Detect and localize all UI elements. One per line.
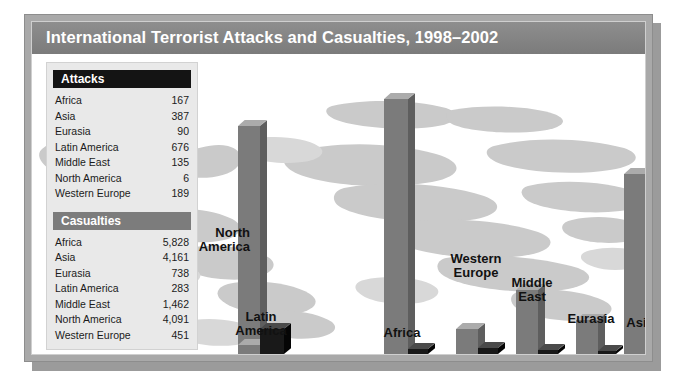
poster-shadow: International Terrorist Attacks and Casu… [24,14,653,362]
row-value: 4,091 [163,312,189,328]
table-row: North America 4,091 [55,312,189,328]
row-value: 4,161 [163,250,189,266]
bar-group-western-europe [456,52,522,354]
attacks-bar-africa[interactable] [408,349,428,354]
row-label: Eurasia [55,266,91,282]
row-label: Western Europe [55,328,131,344]
row-value: 738 [171,266,189,282]
data-tables-panel: Attacks Africa 167 Asia 387 Eurasia 90 [46,62,198,350]
row-label: Eurasia [55,124,91,140]
table-row: North America 6 [55,171,189,187]
table-row: Asia 4,161 [55,250,189,266]
casualties-bar-latin-america[interactable] [238,345,260,354]
bar-label-middle-east: Middle East [488,276,576,304]
table-row: Eurasia 90 [55,124,189,140]
bar-front-face [238,345,260,354]
infographic-page: International Terrorist Attacks and Casu… [0,0,677,388]
bar-front-face [456,329,478,354]
attacks-bar-western-europe[interactable] [478,348,498,354]
row-label: Asia [55,250,75,266]
row-value: 6 [183,171,189,187]
bar-label-africa: Africa [362,326,442,340]
bar-front-face [478,348,498,354]
bar-front-face [408,349,428,354]
attacks-table-header: Attacks [53,70,191,88]
bar-label-latin-america: Latin America [218,310,304,338]
title-bar: International Terrorist Attacks and Casu… [32,22,645,55]
casualties-table-rows: Africa 5,828 Asia 4,161 Eurasia 738 La [47,233,197,344]
row-value: 167 [171,93,189,109]
attacks-table-rows: Africa 167 Asia 387 Eurasia 90 Latin A [47,91,197,202]
row-label: Western Europe [55,186,131,202]
row-label: Middle East [55,297,110,313]
row-label: North America [55,171,122,187]
row-label: Latin America [55,281,119,297]
table-row: Latin America 283 [55,281,189,297]
row-value: 451 [171,328,189,344]
table-row: Western Europe 451 [55,328,189,344]
row-label: North America [55,312,122,328]
bar-label-asia: Asia [600,316,646,330]
bar-group-asia [624,52,646,354]
row-label: Africa [55,235,82,251]
row-label: Middle East [55,155,110,171]
casualties-table-header: Casualties [53,212,191,230]
row-value: 676 [171,140,189,156]
table-row: Africa 167 [55,93,189,109]
page-title: International Terrorist Attacks and Casu… [46,28,498,47]
row-value: 1,462 [163,297,189,313]
row-value: 387 [171,109,189,125]
row-value: 5,828 [163,235,189,251]
attacks-bar-middle-east[interactable] [538,350,558,354]
row-label: Latin America [55,140,119,156]
table-row: Middle East 1,462 [55,297,189,313]
row-label: Africa [55,93,82,109]
row-label: Asia [55,109,75,125]
table-row: Asia 387 [55,109,189,125]
casualties-bar-africa[interactable] [384,99,408,354]
bar-front-face [598,351,616,354]
table-row: Latin America 676 [55,140,189,156]
row-value: 90 [177,124,189,140]
bar-group-middle-east [516,52,582,354]
bar-side-face [408,93,415,354]
row-value: 189 [171,186,189,202]
table-spacer [47,202,197,209]
bar-front-face [538,350,558,354]
poster-frame: International Terrorist Attacks and Casu… [24,14,653,362]
table-row: Western Europe 189 [55,186,189,202]
row-value: 135 [171,155,189,171]
table-row: Africa 5,828 [55,235,189,251]
table-row: Eurasia 738 [55,266,189,282]
bar-front-face [384,99,408,354]
casualties-bar-western-europe[interactable] [456,329,478,354]
bar-group-africa [384,52,454,354]
attacks-bar-eurasia[interactable] [598,351,616,354]
poster-canvas: International Terrorist Attacks and Casu… [31,21,646,355]
table-row: Middle East 135 [55,155,189,171]
row-value: 283 [171,281,189,297]
